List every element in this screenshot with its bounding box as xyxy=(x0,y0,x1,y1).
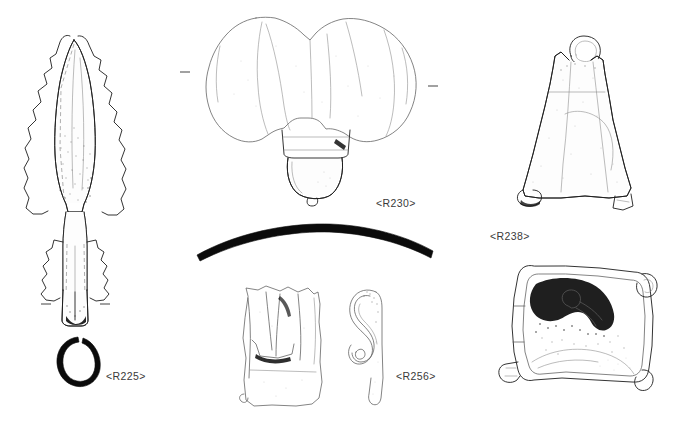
figure-r256-front xyxy=(236,282,328,410)
figure-r225-section xyxy=(50,334,110,392)
figure-r256-profile xyxy=(340,282,392,410)
label-r256: <R256> xyxy=(396,370,436,382)
illustration-plate: <R225> xyxy=(0,0,677,435)
figure-curved-bar xyxy=(193,219,438,261)
figure-r225-spearhead xyxy=(8,28,148,328)
label-r230: <R230> xyxy=(376,197,416,209)
label-r238: <R238> xyxy=(490,230,530,242)
figure-r230-mount xyxy=(196,6,446,206)
figure-r238-base xyxy=(492,250,672,406)
label-r225: <R225> xyxy=(106,370,146,382)
figure-r238-elevation xyxy=(505,30,655,220)
